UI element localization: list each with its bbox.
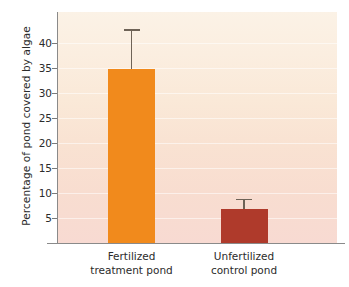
- gridline: [58, 143, 337, 144]
- error-bar-cap: [236, 199, 252, 201]
- chart-figure: Percentage of pond covered by algae 5101…: [0, 0, 349, 287]
- x-tick-label-line: control pond: [184, 264, 304, 278]
- bar: [108, 69, 155, 243]
- gridline: [58, 93, 337, 94]
- gridline: [58, 118, 337, 119]
- x-tick-label: Fertilizedtreatment pond: [72, 250, 192, 277]
- gridline: [58, 168, 337, 169]
- y-axis-line: [57, 12, 58, 244]
- y-tick-label: 35: [26, 63, 52, 74]
- y-tick-mark: [52, 43, 57, 44]
- gridline: [58, 68, 337, 69]
- y-tick-label: 30: [26, 88, 52, 99]
- y-tick-mark: [52, 68, 57, 69]
- error-bar-stem: [131, 29, 132, 69]
- x-tick-label-line: Unfertilized: [184, 250, 304, 264]
- gridline: [58, 43, 337, 44]
- y-tick-label: 40: [26, 38, 52, 49]
- y-tick-mark: [52, 193, 57, 194]
- gridline: [58, 218, 337, 219]
- x-tick-label: Unfertilizedcontrol pond: [184, 250, 304, 277]
- y-tick-mark: [52, 218, 57, 219]
- y-tick-label: 20: [26, 138, 52, 149]
- y-tick-mark: [52, 168, 57, 169]
- plot-area: [58, 12, 337, 243]
- x-tick-label-line: Fertilized: [72, 250, 192, 264]
- y-tick-mark: [52, 118, 57, 119]
- y-tick-labels: 510152025303540: [26, 0, 52, 287]
- gridline: [58, 193, 337, 194]
- y-tick-label: 10: [26, 188, 52, 199]
- y-tick-label: 15: [26, 163, 52, 174]
- y-tick-mark: [52, 93, 57, 94]
- y-tick-mark: [52, 143, 57, 144]
- y-tick-label: 5: [26, 213, 52, 224]
- x-axis-line: [47, 243, 345, 244]
- error-bar-cap: [124, 29, 140, 31]
- y-tick-label: 25: [26, 113, 52, 124]
- x-tick-label-line: treatment pond: [72, 264, 192, 278]
- bar: [221, 209, 268, 243]
